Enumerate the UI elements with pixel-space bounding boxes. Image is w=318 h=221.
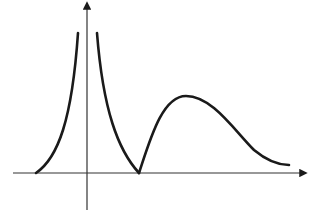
curve-left-branch [36,33,78,173]
function-graph [0,0,318,221]
curve-hump [139,96,289,173]
curve-right-branch [97,33,139,173]
